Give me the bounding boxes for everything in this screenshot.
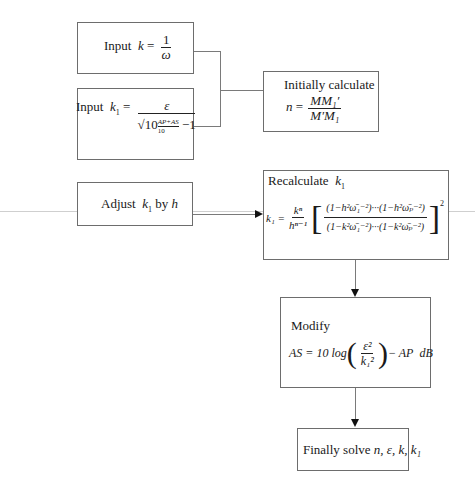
- unit: dB: [419, 346, 432, 361]
- arrow-head-right: [255, 210, 263, 218]
- denominator: k₁²: [359, 354, 376, 368]
- power: 2: [440, 199, 444, 208]
- initial-calc-box: Initially calculate n = MM₁′ M′M₁: [263, 71, 379, 132]
- paren-left: (: [347, 338, 357, 368]
- input-k1-box: Input k1 = ε √10AP+AS10 −1: [77, 88, 194, 160]
- equals: =: [296, 99, 303, 114]
- arrow-head-down: [351, 289, 359, 297]
- by: by: [155, 196, 168, 211]
- tail: −1: [182, 117, 196, 132]
- denominator: (1−k²ω̄₁⁻²)···(1−k²ω̄ₚ⁻²): [325, 218, 426, 236]
- subscript: 1: [148, 205, 152, 214]
- tail: − AP: [388, 346, 414, 361]
- arrow-line: [193, 214, 255, 215]
- lhs: n: [286, 99, 293, 114]
- connector: [194, 126, 221, 127]
- numerator: 1: [161, 33, 172, 48]
- input-k-label: Input: [104, 38, 131, 53]
- sqrt-denominator: √10AP+AS10 −1: [136, 118, 198, 135]
- modify-title: Modify: [291, 318, 330, 334]
- connector: [194, 51, 221, 52]
- input-k1-label: Input: [76, 99, 103, 114]
- final-vars: n, ε, k, k₁: [374, 442, 421, 457]
- numerator: (1−h²ω̄₁⁻²)···(1−h²ω̄ₚ⁻²): [324, 199, 426, 218]
- flowchart: Input k = 1 ω Input k1 = ε √10AP+AS10 −1: [0, 0, 475, 483]
- denominator: hⁿ⁻¹: [287, 218, 309, 232]
- h: h: [171, 196, 178, 211]
- fraction: MM₁′ M′M₁: [308, 94, 341, 123]
- lhs: AS = 10 log: [289, 346, 347, 361]
- subscript: 1: [116, 108, 120, 117]
- numerator: MM₁′: [308, 94, 341, 109]
- fraction: ε √10AP+AS10 −1: [136, 99, 198, 135]
- denominator: M′M₁: [308, 109, 341, 123]
- numerator: kⁿ: [292, 203, 304, 218]
- modify-box: Modify AS = 10 log ( ε² k₁² ) − AP dB: [280, 297, 431, 388]
- arrow-line: [355, 388, 356, 420]
- denominator: ω: [160, 48, 173, 62]
- equals: =: [147, 38, 154, 53]
- numerator: ε²: [361, 339, 373, 354]
- paren-right: ): [378, 338, 388, 368]
- adjust-label: Adjust: [101, 196, 136, 211]
- input-k-lhs: k: [138, 38, 144, 53]
- bracket-right: ]: [429, 203, 440, 233]
- numerator: ε: [138, 99, 195, 114]
- main-fraction: (1−h²ω̄₁⁻²)···(1−h²ω̄ₚ⁻²) (1−k²ω̄₁⁻²)···…: [324, 199, 426, 236]
- arrow-line: [355, 260, 356, 290]
- arrow-head-down: [351, 419, 359, 427]
- recalc-title: Recalculate: [268, 173, 329, 188]
- exp-num: AP+AS: [158, 118, 179, 127]
- final-box: Finally solve n, ε, k, k₁: [297, 428, 409, 471]
- equals: =: [123, 99, 130, 114]
- exp-den: 10: [158, 127, 179, 135]
- fraction: ε² k₁²: [359, 339, 376, 368]
- coef-fraction: kⁿ hⁿ⁻¹: [287, 203, 309, 232]
- fraction: 1 ω: [160, 33, 173, 62]
- adjust-box: Adjust k1 by h: [77, 182, 193, 226]
- initial-calc-title: Initially calculate: [284, 77, 375, 93]
- exponent: AP+AS10: [158, 118, 179, 135]
- recalc-box: Recalculate k1 k₁ = kⁿ hⁿ⁻¹ [ (1−h²ω̄₁⁻²…: [263, 170, 449, 260]
- base: 10: [145, 117, 158, 132]
- bracket-left: [: [311, 203, 322, 233]
- final-label: Finally solve: [303, 442, 371, 457]
- subscript: 1: [341, 182, 345, 191]
- connector: [220, 51, 221, 127]
- connector: [220, 90, 263, 91]
- input-k-box: Input k = 1 ω: [77, 22, 194, 74]
- lhs: k₁ =: [266, 212, 285, 224]
